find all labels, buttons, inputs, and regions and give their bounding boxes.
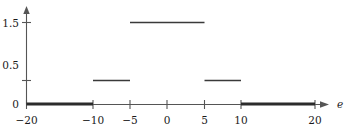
step-function-chart: 1.5 0.5 0 −20 −10 −5 0 5 10 20 e (0, 0, 355, 132)
y-tick-label-0: 0 (12, 98, 19, 110)
y-tick-label-1-5: 1.5 (2, 17, 19, 29)
y-axis-arrow-icon (23, 6, 29, 14)
x-axis-label: e (337, 98, 343, 110)
plot-area: 1.5 0.5 0 −20 −10 −5 0 5 10 20 e (0, 0, 355, 132)
x-tick-label-0: 0 (164, 114, 171, 126)
x-tick-label-neg10: −10 (82, 114, 104, 126)
x-tick-label-neg20: −20 (15, 114, 37, 126)
x-tick-label-10: 10 (234, 114, 247, 126)
x-tick-label-20: 20 (308, 114, 321, 126)
x-axis-arrow-icon (320, 101, 329, 107)
y-tick-label-0-5: 0.5 (2, 59, 19, 71)
x-tick-label-neg5: −5 (122, 114, 137, 126)
x-tick-label-5: 5 (201, 114, 208, 126)
